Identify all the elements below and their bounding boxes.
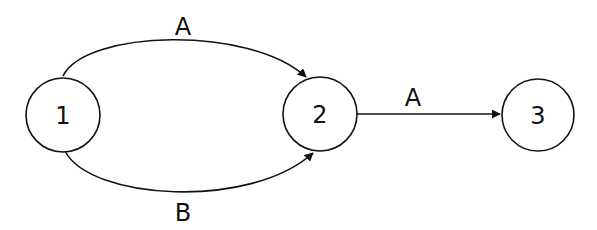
node-2: 2: [283, 77, 357, 151]
state-diagram: A B A 1 2 3: [0, 0, 597, 230]
edge-label-1-2-a: A: [175, 13, 192, 41]
node-2-label: 2: [312, 101, 327, 129]
edge-label-2-3-a: A: [405, 84, 422, 112]
node-3-label: 3: [530, 102, 545, 130]
edge-1-2-b: [65, 151, 313, 192]
edge-1-2-a: [63, 40, 306, 77]
node-3: 3: [502, 79, 574, 151]
edge-label-1-2-b: B: [175, 199, 191, 227]
node-1: 1: [26, 78, 100, 152]
node-1-label: 1: [55, 102, 70, 130]
